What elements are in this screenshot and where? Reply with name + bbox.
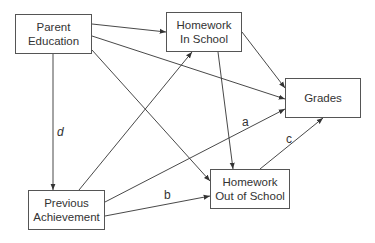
node-label-line2: Out of School xyxy=(215,189,285,203)
node-label-line1: Parent xyxy=(37,20,71,34)
node-label-line2: Achievement xyxy=(33,210,99,224)
edge-prev-to-hw-in xyxy=(79,52,192,190)
node-homework-in-school: Homework In School xyxy=(166,12,242,52)
edge-parent-to-hw-out xyxy=(92,50,210,181)
edge-label-a: a xyxy=(242,115,249,129)
node-grades: Grades xyxy=(285,78,361,118)
node-label-line1: Homework xyxy=(177,18,232,32)
edge-label-d: d xyxy=(57,125,64,139)
edge-label-c: c xyxy=(286,132,292,146)
edge-hw-in-to-hw-out xyxy=(218,52,233,169)
node-label-line1: Homework xyxy=(223,175,278,189)
edge-hw-in-to-grades xyxy=(242,32,285,88)
edge-label-b: b xyxy=(164,188,171,202)
node-parent-education: Parent Education xyxy=(15,14,92,54)
node-label-line1: Grades xyxy=(304,91,342,105)
node-label-line1: Previous xyxy=(44,196,89,210)
node-label-line2: In School xyxy=(180,32,228,46)
edge-prev-to-hw-out xyxy=(105,196,210,216)
node-previous-achievement: Previous Achievement xyxy=(28,190,105,230)
node-homework-out-of-school: Homework Out of School xyxy=(210,169,290,209)
path-diagram: Parent Education Homework In School Grad… xyxy=(0,0,375,243)
node-label-line2: Education xyxy=(28,34,79,48)
edge-parent-to-hw-in xyxy=(92,24,166,32)
